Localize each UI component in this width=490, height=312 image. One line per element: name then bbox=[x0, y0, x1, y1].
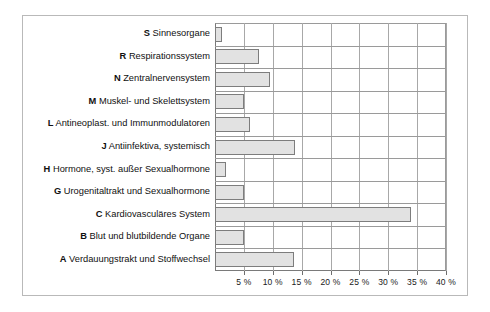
x-tick-label: 30 % bbox=[378, 277, 398, 287]
category-label-A: A Verdauungstrakt und Stoffwechsel bbox=[60, 255, 210, 264]
gridline-35 bbox=[417, 23, 418, 271]
row-separator bbox=[215, 113, 446, 114]
category-label-M: M Muskel- und Skelettsystem bbox=[89, 97, 210, 106]
tick-mark-40 bbox=[446, 271, 447, 275]
x-tick-label: 20 % bbox=[320, 277, 340, 287]
bar-C bbox=[215, 207, 411, 222]
gridline-25 bbox=[359, 23, 360, 271]
category-name: Antineoplast. und Immunmodulatoren bbox=[53, 118, 210, 128]
row-separator bbox=[215, 181, 446, 182]
row-separator bbox=[215, 226, 446, 227]
bar-R bbox=[215, 49, 259, 64]
row-separator bbox=[215, 248, 446, 249]
row-separator bbox=[215, 91, 446, 92]
category-label-S: S Sinnesorgane bbox=[144, 29, 210, 38]
category-name: Antiinfektiva, systemisch bbox=[107, 141, 210, 151]
tick-mark-5 bbox=[244, 271, 245, 275]
bar-B bbox=[215, 230, 244, 245]
category-label-L: L Antineoplast. und Immunmodulatoren bbox=[48, 119, 210, 128]
category-label-H: H Hormone, syst. außer Sexualhormone bbox=[44, 165, 210, 174]
bar-chart: S SinnesorganeR RespirationssystemN Zent… bbox=[23, 16, 469, 297]
row-separator bbox=[215, 158, 446, 159]
bar-S bbox=[215, 27, 222, 42]
category-label-R: R Respirationssystem bbox=[120, 52, 210, 61]
category-name: Blut und blutbildende Organe bbox=[87, 231, 210, 241]
row-separator bbox=[215, 203, 446, 204]
tick-mark-10 bbox=[273, 271, 274, 275]
row-separator bbox=[215, 46, 446, 47]
category-name: Respirationssystem bbox=[126, 51, 210, 61]
category-name: Hormone, syst. außer Sexualhormone bbox=[50, 164, 210, 174]
tick-mark-15 bbox=[302, 271, 303, 275]
x-tick-label: 35 % bbox=[407, 277, 427, 287]
bar-A bbox=[215, 252, 294, 267]
category-name: Zentralnervensystem bbox=[121, 73, 210, 83]
tick-mark-20 bbox=[331, 271, 332, 275]
category-name: Urogenitaltrakt und Sexualhormone bbox=[61, 186, 210, 196]
bar-L bbox=[215, 117, 250, 132]
row-separator bbox=[215, 136, 446, 137]
gridline-40 bbox=[446, 23, 447, 271]
x-tick-label: 40 % bbox=[436, 277, 456, 287]
chart-figure: S SinnesorganeR RespirationssystemN Zent… bbox=[22, 15, 468, 296]
tick-mark-35 bbox=[417, 271, 418, 275]
category-label-N: N Zentralnervensystem bbox=[114, 74, 210, 83]
category-label-J: J Antiinfektiva, systemisch bbox=[101, 142, 210, 151]
category-code: B bbox=[80, 231, 87, 241]
category-code: C bbox=[96, 209, 103, 219]
x-tick-label: 25 % bbox=[349, 277, 369, 287]
bar-J bbox=[215, 140, 295, 155]
category-name: Muskel- und Skelettsystem bbox=[96, 96, 210, 106]
row-separator bbox=[215, 68, 446, 69]
category-name: Kardiovasculäres System bbox=[103, 209, 210, 219]
bar-H bbox=[215, 162, 226, 177]
bar-G bbox=[215, 185, 244, 200]
category-label-C: C Kardiovasculäres System bbox=[96, 210, 210, 219]
x-tick-label: 15 % bbox=[292, 277, 312, 287]
x-tick-label: 5 % bbox=[236, 277, 251, 287]
category-code: N bbox=[114, 73, 121, 83]
gridline-30 bbox=[388, 23, 389, 271]
category-label-B: B Blut und blutbildende Organe bbox=[80, 232, 210, 241]
category-name: Verdauungstrakt und Stoffwechsel bbox=[66, 254, 210, 264]
tick-mark-25 bbox=[359, 271, 360, 275]
category-label-G: G Urogenitaltrakt und Sexualhormone bbox=[54, 187, 210, 196]
gridline-15 bbox=[302, 23, 303, 271]
category-name: Sinnesorgane bbox=[150, 28, 210, 38]
bar-M bbox=[215, 94, 244, 109]
gridline-20 bbox=[331, 23, 332, 271]
x-tick-label: 10 % bbox=[263, 277, 283, 287]
tick-mark-30 bbox=[388, 271, 389, 275]
bar-N bbox=[215, 72, 270, 87]
